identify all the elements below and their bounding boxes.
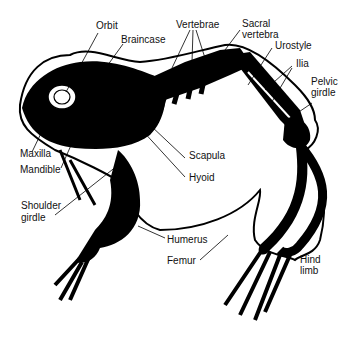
- label-hind-2: limb: [300, 265, 318, 276]
- label-shoulder-2: girdle: [21, 212, 45, 223]
- frog-skeleton-diagram: Orbit Braincase Vertebrae Sacral vertebr…: [0, 0, 349, 337]
- label-mandible: Mandible: [20, 164, 61, 175]
- label-sacral-2: vertebra: [242, 29, 279, 40]
- label-maxilla: Maxilla: [20, 148, 51, 159]
- label-sacral-1: Sacral: [242, 18, 270, 29]
- label-hyoid: Hyoid: [189, 172, 215, 183]
- label-humerus: Humerus: [167, 234, 208, 245]
- label-shoulder-1: Shoulder: [21, 200, 61, 211]
- label-hind-1: Hind: [300, 254, 321, 265]
- label-braincase: Braincase: [121, 34, 165, 45]
- label-scapula: Scapula: [189, 150, 225, 161]
- label-urostyle: Urostyle: [275, 40, 312, 51]
- label-vertebrae: Vertebrae: [176, 19, 219, 30]
- label-orbit: Orbit: [96, 20, 118, 31]
- label-pelvic-1: Pelvic: [311, 76, 338, 87]
- label-ilia: Ilia: [296, 58, 309, 69]
- label-pelvic-2: girdle: [311, 87, 335, 98]
- label-femur: Femur: [167, 255, 196, 266]
